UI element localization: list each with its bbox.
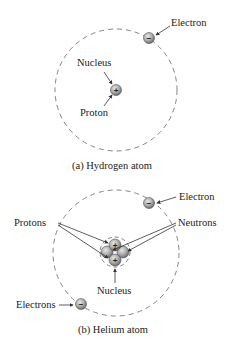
electron-leader-line	[156, 26, 170, 35]
protons-label: Protons	[14, 217, 46, 228]
helium-electron-bottom: −	[76, 299, 87, 310]
proton-leader-line	[104, 95, 112, 106]
neutrons-label: Neutrons	[178, 217, 217, 228]
electrons-label: Electrons	[16, 299, 56, 310]
helium-electron-top: −	[144, 198, 155, 209]
minus-sign-icon: −	[147, 199, 152, 208]
electron-label: Electron	[179, 191, 215, 202]
nucleus-leader-line	[104, 72, 112, 84]
hydrogen-electron: −	[144, 33, 155, 44]
minus-sign-icon: −	[79, 300, 84, 309]
helium-atom: + + − Electron − Electrons Protons Neutr…	[14, 190, 217, 336]
neutrons-leader-line-left	[113, 223, 176, 250]
proton-label: Proton	[80, 107, 109, 118]
helium-caption: (b) Helium atom	[78, 324, 148, 336]
nucleus-label: Nucleus	[77, 57, 111, 68]
atom-diagram: − Electron + Nucleus Proton (a) Hydrogen…	[0, 0, 231, 347]
electron-leader-line	[157, 197, 176, 203]
helium-orbit	[53, 190, 179, 316]
hydrogen-caption: (a) Hydrogen atom	[72, 160, 152, 172]
neutrons-leader-line-right	[128, 225, 176, 251]
hydrogen-atom: − Electron + Nucleus Proton (a) Hydrogen…	[55, 17, 207, 172]
protons-leader-line-top	[58, 223, 108, 243]
plus-sign-icon: +	[114, 86, 119, 95]
protons-leader-line-bottom	[58, 225, 108, 258]
helium-nucleus: + +	[101, 239, 129, 266]
nucleus-label: Nucleus	[97, 285, 131, 296]
plus-sign-icon: +	[113, 256, 118, 265]
minus-sign-icon: −	[147, 34, 152, 43]
electron-label: Electron	[171, 17, 207, 28]
hydrogen-nucleus: +	[111, 85, 122, 96]
